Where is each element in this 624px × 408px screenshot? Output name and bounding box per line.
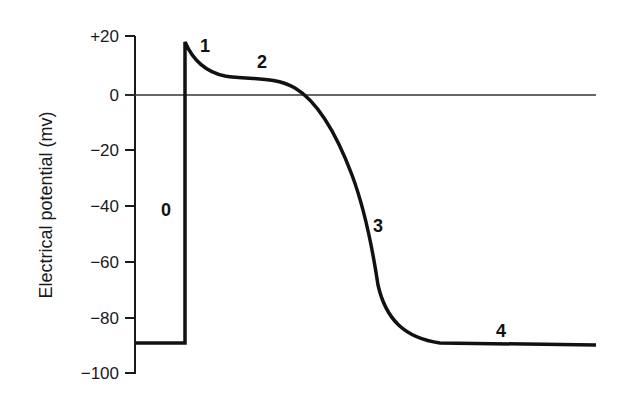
phase-label-1: 1 — [200, 36, 210, 56]
tick-label-minus100: −100 — [81, 364, 119, 383]
phase-label-3: 3 — [373, 216, 383, 236]
y-axis-title: Electrical potential (mv) — [36, 111, 56, 298]
tick-label-minus20: −20 — [90, 141, 119, 160]
tick-label-minus40: −40 — [90, 197, 119, 216]
y-tick-labels: +20 0 −20 −40 −60 −80 −100 — [81, 27, 119, 383]
phase-label-0: 0 — [161, 200, 171, 220]
tick-label-minus60: −60 — [90, 253, 119, 272]
action-potential-chart: +20 0 −20 −40 −60 −80 −100 Electrical po… — [0, 0, 624, 408]
action-potential-curve — [136, 42, 596, 345]
tick-label-plus20: +20 — [90, 27, 119, 46]
phase-label-4: 4 — [496, 321, 506, 341]
tick-label-minus80: −80 — [90, 309, 119, 328]
phase-label-2: 2 — [257, 52, 267, 72]
y-ticks — [125, 36, 135, 373]
tick-label-0: 0 — [110, 86, 119, 105]
